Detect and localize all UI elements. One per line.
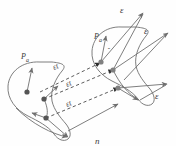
n-hat-label: ˆn — [95, 137, 176, 146]
right-lower-connector — [140, 85, 166, 100]
node-point-right-c — [115, 85, 120, 90]
p-hat-a-arrow-left — [27, 68, 32, 92]
n-hat-symbol: n — [95, 136, 100, 146]
p-hat-a-label-left: ˆPa — [21, 53, 176, 63]
node-point-left-c — [43, 115, 48, 120]
p-hat-a-subscript-right: a — [99, 36, 102, 42]
left-region-vectors — [16, 68, 68, 137]
left-region-outline — [8, 62, 70, 140]
node-points — [24, 59, 120, 120]
left-node-b-arrow — [44, 86, 58, 99]
p-hat-a-label-right: ˆPa — [94, 33, 176, 43]
node-point-right-b — [110, 67, 115, 72]
node-point-left-b — [41, 96, 46, 101]
dashed-transport-vectors — [40, 63, 118, 118]
figure-canvas: ε ε ε εt εt εt ˆPa ˆPa ˆn — [0, 0, 176, 146]
p-hat-mark-left: ˆ — [108, 47, 110, 54]
epsilon-label-top-right: ε — [120, 6, 124, 15]
node-point-left-a — [24, 89, 29, 94]
epsilon-label-bottom-right: ε — [155, 92, 159, 101]
dashed-vector-lower — [46, 88, 118, 118]
left-node-b-curve — [44, 99, 47, 118]
p-hat-a-subscript-left: a — [26, 57, 29, 63]
diagram-svg — [0, 0, 176, 146]
epsilon-arrow-bottom — [118, 84, 167, 88]
n-hat-arrow — [68, 104, 118, 131]
